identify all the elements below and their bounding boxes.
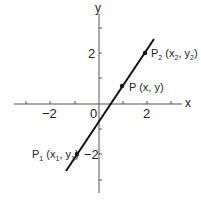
x-tick-label-neg2: −2	[42, 106, 57, 121]
coordinate-diagram: y x −2 0 2 2 −2 P2 (x2, y2) P (x, y) P1 …	[0, 0, 201, 205]
y-tick-label-neg2: −2	[84, 147, 99, 162]
point-p2-label: P2 (x2, y2)	[151, 47, 198, 61]
point-p	[120, 84, 124, 88]
y-axis-label: y	[95, 1, 101, 15]
point-p2	[143, 51, 147, 55]
point-p1-label: P1 (x1, y1)	[32, 148, 79, 162]
y-tick-label-2: 2	[88, 46, 95, 61]
x-tick-label-2: 2	[143, 106, 150, 121]
point-p-label: P (x, y)	[129, 81, 164, 93]
x-axis-label: x	[185, 96, 191, 110]
origin-label: 0	[90, 106, 97, 121]
line-through-points	[66, 39, 154, 171]
